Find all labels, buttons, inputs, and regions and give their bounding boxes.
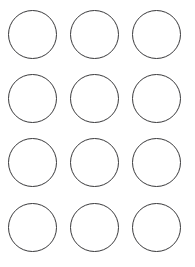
circle-outline[interactable] xyxy=(70,10,119,59)
circle-template-page xyxy=(0,0,195,267)
circle-outline[interactable] xyxy=(8,10,57,59)
circle-outline[interactable] xyxy=(132,138,181,187)
circle-outline[interactable] xyxy=(8,138,57,187)
circle-outline[interactable] xyxy=(132,10,181,59)
circle-outline[interactable] xyxy=(8,203,57,252)
circle-outline[interactable] xyxy=(70,203,119,252)
circle-outline[interactable] xyxy=(132,74,181,123)
circle-outline[interactable] xyxy=(8,74,57,123)
circle-outline[interactable] xyxy=(132,203,181,252)
circle-grid xyxy=(0,0,195,267)
circle-outline[interactable] xyxy=(70,74,119,123)
circle-outline[interactable] xyxy=(70,138,119,187)
